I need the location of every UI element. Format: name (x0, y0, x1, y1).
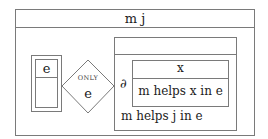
right-box-header-divider (114, 54, 237, 55)
inner-x-divider (132, 78, 229, 79)
inner-x-body: m helps x in e (132, 85, 229, 97)
right-box-footer: m helps j in e (121, 110, 203, 122)
relationship-qualifier: ONLY (62, 75, 114, 82)
partial-symbol: ∂ (120, 77, 127, 90)
relationship-label: e (62, 87, 114, 100)
inner-x-title: x (132, 62, 229, 74)
